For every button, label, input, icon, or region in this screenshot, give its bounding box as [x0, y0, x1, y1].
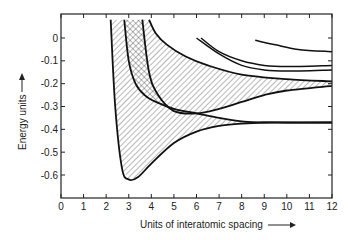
- x-tick-label: 9: [261, 201, 267, 212]
- x-tick-label: 8: [239, 201, 245, 212]
- x-tick-label: 1: [81, 201, 87, 212]
- x-tick-label: 10: [281, 201, 293, 212]
- x-axis-label: Units of interatomic spacing: [140, 219, 263, 230]
- band-regions: [111, 20, 332, 180]
- x-tick-label: 5: [171, 201, 177, 212]
- y-tick-label: -0.5: [41, 147, 59, 158]
- y-tick-label: -0.2: [41, 78, 59, 89]
- x-tick-label: 12: [326, 201, 338, 212]
- x-tick-label: 2: [103, 201, 109, 212]
- y-tick-label: 0: [52, 33, 58, 44]
- x-tick-label: 11: [304, 201, 315, 212]
- x-tick-label: 4: [149, 201, 155, 212]
- x-tick-label: 7: [216, 201, 222, 212]
- y-axis-label: Energy units: [17, 94, 28, 150]
- y-axis-arrow-icon: [19, 73, 25, 92]
- y-tick-label: -0.3: [41, 101, 59, 112]
- energy-band-chart: 0123456789101112 0-0.1-0.2-0.3-0.4-0.5-0…: [0, 0, 348, 240]
- y-tick-label: -0.1: [41, 55, 59, 66]
- y-tick-label: -0.4: [41, 124, 59, 135]
- y-tick-label: -0.6: [41, 170, 59, 181]
- x-axis-arrow-icon: [268, 222, 296, 228]
- x-tick-label: 0: [58, 201, 64, 212]
- curve-7: [255, 40, 332, 51]
- x-tick-label: 3: [126, 201, 132, 212]
- x-tick-label: 6: [194, 201, 200, 212]
